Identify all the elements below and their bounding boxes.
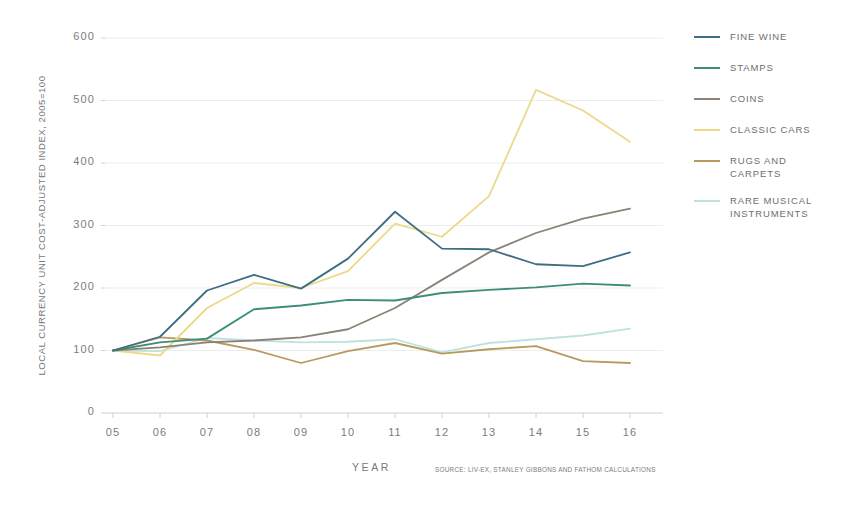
x-tick-label: 15 xyxy=(568,426,598,438)
series-lines xyxy=(113,90,630,363)
legend-item[interactable]: STAMPS xyxy=(694,61,844,74)
legend-item[interactable]: CLASSIC CARS xyxy=(694,123,844,136)
x-tick-label: 05 xyxy=(98,426,128,438)
x-tick-label: 14 xyxy=(521,426,551,438)
legend-item[interactable]: RARE MUSICAL INSTRUMENTS xyxy=(694,194,844,220)
x-tick-label: 08 xyxy=(239,426,269,438)
legend-item[interactable]: RUGS AND CARPETS xyxy=(694,154,844,180)
legend-swatch-icon xyxy=(694,200,720,202)
x-tick-label: 09 xyxy=(286,426,316,438)
x-axis-title: YEAR xyxy=(352,461,391,473)
y-tick-label: 600 xyxy=(55,30,95,42)
legend-label: COINS xyxy=(730,92,765,105)
y-tick-label: 200 xyxy=(55,280,95,292)
legend-item[interactable]: FINE WINE xyxy=(694,30,844,43)
y-tick-label: 0 xyxy=(55,405,95,417)
x-tick-label: 06 xyxy=(145,426,175,438)
legend: FINE WINESTAMPSCOINSCLASSIC CARSRUGS AND… xyxy=(694,30,844,234)
legend-label: RARE MUSICAL INSTRUMENTS xyxy=(730,194,812,220)
legend-swatch-icon xyxy=(694,36,720,38)
legend-label: CLASSIC CARS xyxy=(730,123,811,136)
legend-swatch-icon xyxy=(694,98,720,100)
y-tick-label: 500 xyxy=(55,93,95,105)
x-tick-label: 13 xyxy=(474,426,504,438)
legend-label: STAMPS xyxy=(730,61,774,74)
legend-item[interactable]: COINS xyxy=(694,92,844,105)
x-tick-label: 10 xyxy=(333,426,363,438)
x-tick-label: 11 xyxy=(380,426,410,438)
x-tick-label: 12 xyxy=(427,426,457,438)
legend-label: RUGS AND CARPETS xyxy=(730,154,787,180)
series-line xyxy=(113,90,630,356)
legend-swatch-icon xyxy=(694,129,720,131)
y-tick-label: 100 xyxy=(55,343,95,355)
x-tick-marks xyxy=(113,413,630,418)
x-tick-label: 07 xyxy=(192,426,222,438)
legend-label: FINE WINE xyxy=(730,30,787,43)
legend-swatch-icon xyxy=(694,67,720,69)
series-line xyxy=(113,209,630,351)
y-tick-label: 400 xyxy=(55,155,95,167)
source-note: SOURCE: LIV-EX, STANLEY GIBBONS AND FATH… xyxy=(435,466,656,473)
x-tick-label: 16 xyxy=(615,426,645,438)
series-line xyxy=(113,212,630,351)
y-tick-label: 300 xyxy=(55,218,95,230)
legend-swatch-icon xyxy=(694,160,720,162)
chart-container: LOCAL CURRENCY UNIT COST-ADJUSTED INDEX,… xyxy=(0,0,848,508)
